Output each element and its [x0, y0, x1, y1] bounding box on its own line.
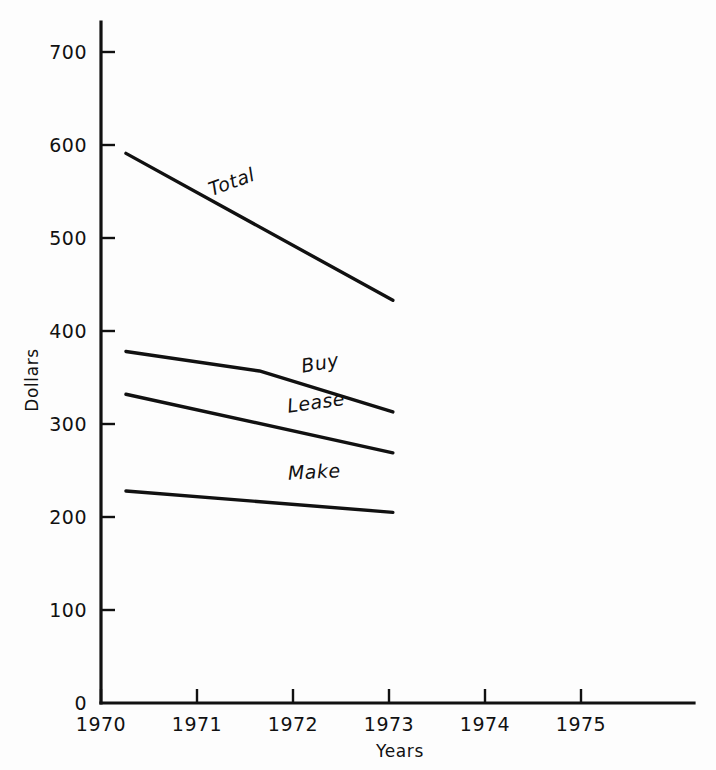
line-chart: 0100200300400500600700 19701971197219731…: [0, 0, 716, 770]
y-tick-label: 0: [74, 692, 87, 714]
x-tick-label: 1973: [364, 713, 414, 735]
series-line-total: [126, 153, 393, 300]
y-axis-ticks: 0100200300400500600700: [49, 41, 115, 714]
series-line-lease: [126, 394, 393, 453]
y-tick-label: 700: [49, 41, 87, 63]
x-axis-ticks: 197019711972197319741975: [76, 689, 606, 735]
y-tick-label: 500: [49, 227, 87, 249]
series-label-lease: Lease: [286, 387, 347, 417]
x-tick-label: 1971: [172, 713, 222, 735]
series-label-buy: Buy: [299, 349, 340, 377]
y-tick-label: 200: [49, 506, 87, 528]
series-label-total: Total: [205, 163, 258, 200]
chart-canvas: 0100200300400500600700 19701971197219731…: [0, 0, 716, 770]
y-axis-title: Dollars: [22, 348, 42, 411]
x-tick-label: 1974: [460, 713, 510, 735]
series-lines-group: [126, 153, 393, 512]
y-tick-label: 400: [49, 320, 87, 342]
x-tick-label: 1975: [556, 713, 606, 735]
x-axis-title: Years: [375, 741, 424, 761]
x-tick-label: 1970: [76, 713, 126, 735]
y-tick-label: 600: [49, 134, 87, 156]
series-label-make: Make: [287, 459, 341, 484]
y-tick-label: 100: [49, 599, 87, 621]
x-tick-label: 1972: [268, 713, 318, 735]
series-line-make: [126, 491, 393, 512]
y-tick-label: 300: [49, 413, 87, 435]
series-labels-group: TotalBuyLeaseMake: [205, 163, 346, 484]
